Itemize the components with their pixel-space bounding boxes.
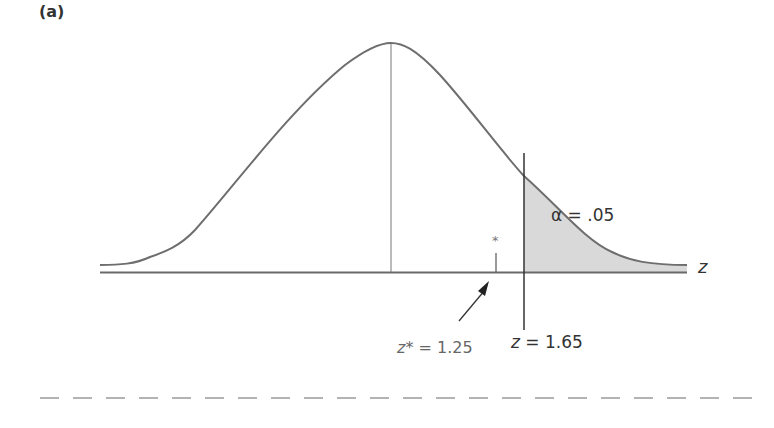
star-marker: * (492, 233, 499, 248)
z-critical-symbol: z (511, 332, 520, 352)
z-axis-label: z (698, 256, 707, 277)
panel-label: (a) (39, 2, 64, 21)
z-critical-value: = 1.65 (520, 332, 583, 352)
z-star-value: * = 1.25 (405, 338, 472, 357)
z-star-arrow-head (478, 281, 489, 296)
z-star-label: z* = 1.25 (397, 338, 473, 357)
normal-distribution-figure (0, 0, 774, 428)
normal-curve (100, 43, 687, 265)
z-star-arrow-shaft (459, 290, 485, 321)
alpha-label: α = .05 (551, 205, 614, 225)
z-critical-label: z = 1.65 (511, 332, 583, 352)
